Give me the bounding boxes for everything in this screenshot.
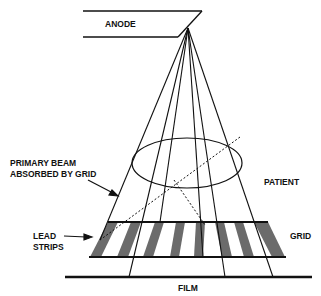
lead-strips-label-line2: STRIPS	[33, 242, 64, 253]
patient-ellipse	[132, 138, 242, 188]
primary-beam-label-line2: ABSORBED BY GRID	[10, 169, 96, 180]
anode-label: ANODE	[105, 19, 136, 30]
anode-shape	[83, 11, 202, 37]
patient-label: PATIENT	[264, 177, 299, 188]
xray-grid-diagram: ANODE PRIMARY BEAM ABSORBED BY GRID PATI…	[0, 0, 321, 296]
primary-beam-label-line1: PRIMARY BEAM	[10, 158, 76, 169]
film-label: FILM	[178, 283, 198, 294]
grid-label: GRID	[290, 231, 311, 242]
lead-strips-label-line1: LEAD	[33, 231, 56, 242]
